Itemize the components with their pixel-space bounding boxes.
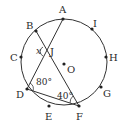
angle-label-40: 40° [57, 91, 73, 101]
label-j: J [49, 46, 54, 57]
point-h [104, 55, 107, 58]
label-o: O [67, 64, 75, 75]
point-e [47, 104, 50, 107]
point-o [62, 62, 65, 65]
label-c: C [10, 52, 18, 63]
angle-label-x: x [36, 46, 41, 56]
label-b: B [26, 20, 33, 31]
circle-geometry-diagram: A I H G F E D C B J O x 80° 40° [0, 0, 129, 128]
label-a: A [58, 4, 67, 15]
point-a [61, 17, 64, 20]
label-e: E [45, 111, 52, 122]
point-d [25, 87, 28, 90]
label-i: I [93, 18, 97, 29]
label-d: D [16, 89, 24, 100]
point-c [19, 55, 22, 58]
label-f: F [76, 111, 83, 122]
angle-label-80: 80° [36, 77, 52, 87]
point-b [34, 29, 37, 32]
label-h: H [109, 52, 118, 63]
label-g: G [103, 88, 111, 99]
point-f [77, 104, 80, 107]
